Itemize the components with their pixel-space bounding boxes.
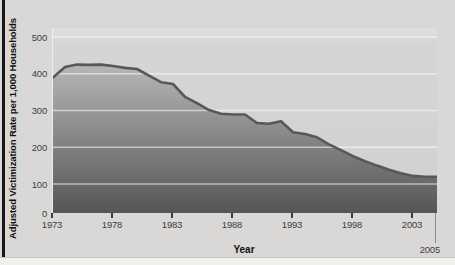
y-tick-label-500: 500 bbox=[14, 32, 47, 43]
area-chart bbox=[53, 28, 437, 213]
y-tick-label-300: 300 bbox=[14, 105, 47, 116]
x-tick-mark-1993 bbox=[291, 213, 293, 218]
x-tick-label-2003: 2003 bbox=[395, 219, 429, 230]
screenshot-canvas: Adjusted Victimization Rate per 1,000 Ho… bbox=[0, 0, 455, 265]
y-tick-label-200: 200 bbox=[14, 142, 47, 153]
x-tick-label-1978: 1978 bbox=[95, 219, 129, 230]
y-tick-label-100: 100 bbox=[14, 179, 47, 190]
x-tick-label-1988: 1988 bbox=[215, 219, 249, 230]
area-fill bbox=[53, 65, 437, 213]
y-tick-label-0: 0 bbox=[14, 208, 47, 219]
x-tick-mark-1998 bbox=[351, 213, 353, 218]
x-tick-label-1998: 1998 bbox=[335, 219, 369, 230]
y-tick-label-400: 400 bbox=[14, 68, 47, 79]
x-tick-label-1973: 1973 bbox=[35, 219, 69, 230]
x-tick-mark-2003 bbox=[411, 213, 413, 218]
x-tick-label-1983: 1983 bbox=[155, 219, 189, 230]
x-tick-label-1993: 1993 bbox=[275, 219, 309, 230]
page-edge-strip bbox=[0, 257, 455, 265]
x-tick-mark-1978 bbox=[111, 213, 113, 218]
x-tick-mark-1988 bbox=[231, 213, 233, 218]
victimization-rate-figure: Adjusted Victimization Rate per 1,000 Ho… bbox=[0, 0, 455, 257]
plot-area bbox=[52, 28, 437, 213]
x-tick-mark-1973 bbox=[51, 213, 53, 218]
x-axis-title: Year bbox=[210, 244, 278, 255]
x-tick-mark-1983 bbox=[171, 213, 173, 218]
end-year-label: 2005 bbox=[408, 244, 440, 255]
end-year-leader-line bbox=[435, 213, 436, 243]
